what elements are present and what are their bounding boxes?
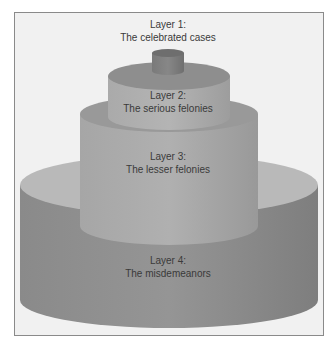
layer-3-subtitle: The lesser felonies: [126, 164, 210, 175]
layer-2-title: Layer 2:: [150, 90, 186, 101]
layer-1-subtitle: The celebrated cases: [120, 32, 216, 43]
layer-1-title: Layer 1:: [150, 19, 186, 30]
tier-1: [152, 49, 184, 75]
wedding-cake-diagram: Layer 1: The celebrated cases Layer 2: T…: [0, 0, 335, 350]
layer-4-subtitle: The misdemeanors: [125, 268, 211, 279]
layer-1-label: Layer 1: The celebrated cases: [120, 19, 216, 43]
layer-2-subtitle: The serious felonies: [123, 103, 213, 114]
layer-3-title: Layer 3:: [150, 151, 186, 162]
layer-4-title: Layer 4:: [150, 255, 186, 266]
